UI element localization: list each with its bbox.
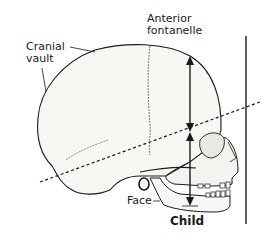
anterior-fontanelle-label: Anterior fontanelle [147, 13, 202, 37]
external-acoustic-meatus [139, 178, 149, 190]
cranial-vault-leader-1 [70, 47, 95, 52]
cranial-vault-label: Cranial vault [26, 41, 65, 65]
skull-figure: Cranial vault Anterior fontanelle Face C… [0, 0, 269, 243]
figure-caption: Child [170, 215, 204, 227]
cranial-vault-leader-2 [42, 68, 46, 92]
cranial-vault-label-line2: vault [26, 53, 65, 65]
face-label: Face [127, 195, 152, 207]
anterior-fontanelle-label-line2: fontanelle [147, 25, 202, 37]
